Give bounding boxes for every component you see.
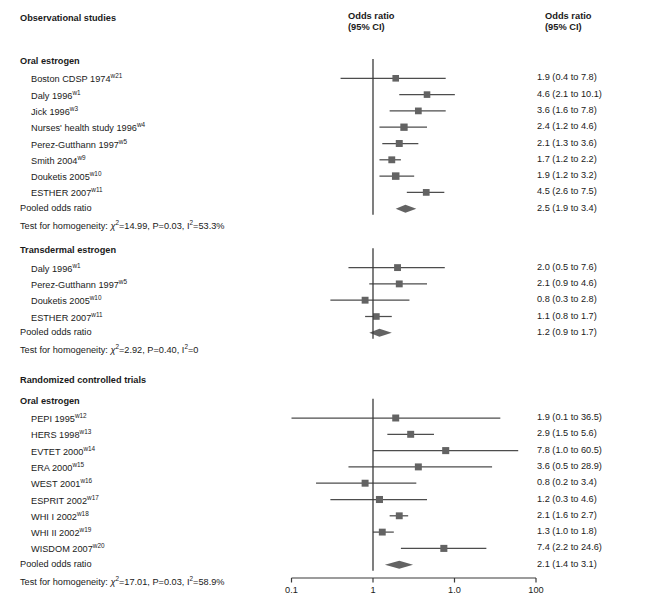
study-name: ESTHER 2007 <box>31 313 91 323</box>
forest-row-graphic <box>348 463 492 470</box>
reference-superscript: w16 <box>80 477 92 484</box>
study-name: Smith 2004 <box>31 156 77 166</box>
forest-row-graphic <box>348 264 444 271</box>
study-name: ESPRIT 2002 <box>31 496 87 506</box>
col-header-center-line2: (95% CI) <box>348 23 385 32</box>
odds-ratio-value: 3.6 (1.6 to 7.8) <box>537 106 597 115</box>
study-label: WHI I 2002w18 <box>31 511 89 522</box>
reference-superscript: w11 <box>91 186 102 193</box>
pooled-label: Pooled odds ratio <box>20 204 92 213</box>
forest-row-graphic <box>401 545 486 552</box>
study-label: PEPI 1995w12 <box>31 413 87 424</box>
study-name: WISDOM 2007 <box>31 544 93 554</box>
odds-ratio-value: 1.9 (1.2 to 3.2) <box>537 171 597 180</box>
study-name: Daly 1996 <box>31 264 72 274</box>
study-label: Daly 1996w1 <box>31 263 81 274</box>
homogeneity-chi-stats: =14.99, P=0.03, <box>119 221 187 231</box>
study-name: Boston CDSP 1974 <box>31 74 111 84</box>
study-name: Daly 1996 <box>31 91 72 101</box>
odds-ratio-value: 1.1 (0.8 to 1.7) <box>537 312 597 321</box>
axis-tick-label: 1 <box>351 585 395 595</box>
forest-row-graphic <box>373 529 394 536</box>
reference-superscript: w14 <box>83 445 95 452</box>
odds-ratio-value: 4.6 (2.1 to 10.1) <box>537 90 602 99</box>
study-label: HERS 1998w13 <box>31 429 91 440</box>
odds-ratio-value: 0.8 (0.2 to 3.4) <box>537 478 597 487</box>
study-name: EVTET 2000 <box>31 447 83 457</box>
section-title: Randomized controlled trials <box>20 376 146 385</box>
reference-superscript: w21 <box>111 72 123 79</box>
study-label: WEST 2001w16 <box>31 478 92 489</box>
reference-superscript: w19 <box>80 526 92 533</box>
axis-tick-label: 100 <box>514 585 558 595</box>
study-label: Daly 1996w1 <box>31 90 81 101</box>
reference-superscript: w9 <box>77 154 85 161</box>
forest-row-graphic <box>373 447 518 454</box>
study-label: WHI II 2002w19 <box>31 527 91 538</box>
study-name: Jick 1996 <box>31 107 70 117</box>
reference-superscript: w20 <box>93 542 105 549</box>
study-label: EVTET 2000w14 <box>31 446 95 457</box>
homogeneity-i2-value: =58.9% <box>193 577 224 587</box>
forest-row-graphic <box>316 480 416 487</box>
odds-ratio-value: 2.1 (0.9 to 4.6) <box>537 279 597 288</box>
study-label: Perez-Gutthann 1997w5 <box>31 279 127 290</box>
col-header-right-line1: Odds ratio <box>545 12 592 21</box>
forest-row-graphic <box>407 189 444 196</box>
reference-superscript: w17 <box>87 494 99 501</box>
study-label: ESTHER 2007w11 <box>31 187 103 198</box>
study-label: Perez-Gutthann 1997w5 <box>31 139 127 150</box>
reference-superscript: w3 <box>70 105 78 112</box>
subgroup-title: Oral estrogen <box>20 397 80 406</box>
odds-ratio-value: 1.2 (0.3 to 4.6) <box>537 495 597 504</box>
study-name: HERS 1998 <box>31 430 80 440</box>
reference-superscript: w1 <box>72 262 80 269</box>
study-label: ESTHER 2007w11 <box>31 312 103 323</box>
study-label: Smith 2004w9 <box>31 155 86 166</box>
reference-superscript: w5 <box>119 278 127 285</box>
odds-ratio-value: 2.4 (1.2 to 4.6) <box>537 122 597 131</box>
axis-tick-label: 0.1 <box>270 585 314 595</box>
forest-row-graphic <box>341 75 446 82</box>
page-title: Observational studies <box>20 14 116 23</box>
forest-row-graphic <box>292 415 501 422</box>
homogeneity-prefix: Test for homogeneity: <box>20 221 110 231</box>
study-label: Douketis 2005w10 <box>31 171 101 182</box>
homogeneity-prefix: Test for homogeneity: <box>20 577 110 587</box>
subgroup-title: Transdermal estrogen <box>20 246 116 255</box>
pooled-diamond <box>385 561 413 569</box>
reference-superscript: w4 <box>137 121 145 128</box>
study-name: WHI I 2002 <box>31 512 77 522</box>
col-header-center-line1: Odds ratio <box>348 12 395 21</box>
odds-ratio-value: 2.0 (0.5 to 7.6) <box>537 263 597 272</box>
forest-row-graphic <box>379 124 427 131</box>
odds-ratio-value: 4.5 (2.6 to 7.5) <box>537 187 597 196</box>
reference-superscript: w12 <box>75 412 87 419</box>
study-name: ERA 2000 <box>31 463 72 473</box>
odds-ratio-value: 7.8 (1.0 to 60.5) <box>537 446 602 455</box>
odds-ratio-value: 1.9 (0.4 to 7.8) <box>537 73 597 82</box>
subgroup-title: Oral estrogen <box>20 57 80 66</box>
forest-row-graphic <box>365 313 392 320</box>
forest-row-graphic <box>399 91 455 98</box>
study-name: WHI II 2002 <box>31 528 80 538</box>
odds-ratio-value: 2.1 (1.3 to 3.6) <box>537 139 597 148</box>
pooled-odds-ratio-value: 2.5 (1.9 to 3.4) <box>537 204 597 213</box>
reference-superscript: w1 <box>72 89 80 96</box>
reference-superscript: w15 <box>72 461 84 468</box>
odds-ratio-value: 0.8 (0.3 to 2.8) <box>537 295 597 304</box>
odds-ratio-value: 1.3 (1.0 to 1.8) <box>537 527 597 536</box>
forest-row-graphic <box>369 280 427 287</box>
reference-superscript: w10 <box>90 170 102 177</box>
homogeneity-chi-stats: =2.92, P=0.40, <box>119 345 182 355</box>
odds-ratio-value: 3.6 (0.5 to 28.9) <box>537 462 602 471</box>
reference-superscript: w10 <box>90 294 102 301</box>
reference-superscript: w13 <box>80 428 92 435</box>
odds-ratio-value: 1.9 (0.1 to 36.5) <box>537 413 602 422</box>
study-label: Nurses' health study 1996w4 <box>31 122 145 133</box>
pooled-odds-ratio-value: 2.1 (1.4 to 3.1) <box>537 560 597 569</box>
forest-row-graphic <box>390 108 446 115</box>
reference-superscript: w11 <box>91 311 102 318</box>
odds-ratio-value: 7.4 (2.2 to 24.6) <box>537 543 602 552</box>
study-name: Douketis 2005 <box>31 296 90 306</box>
